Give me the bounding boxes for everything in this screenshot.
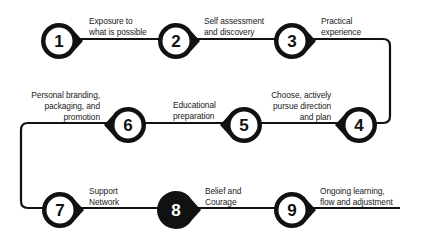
step-4-label: Choose, actively pursue direction and pl… xyxy=(271,89,331,122)
step-3-number: 3 xyxy=(287,32,296,51)
step-8-node-highlighted: 8 xyxy=(157,191,201,229)
step-1-number: 1 xyxy=(54,32,63,51)
step-2-number: 2 xyxy=(171,32,180,51)
step-2-label: Self assessment and discovery xyxy=(204,15,264,37)
step-3-label: Practical experience xyxy=(321,15,361,37)
step-5-number: 5 xyxy=(239,116,248,135)
step-9-label: Ongoing learning, flow and adjustment xyxy=(320,185,393,207)
step-2-node: 2 xyxy=(158,23,200,59)
step-5-label: Educational preparation xyxy=(173,99,216,121)
step-6-label: Personal branding, packaging, and promot… xyxy=(31,89,100,122)
step-7-node: 7 xyxy=(42,192,84,228)
step-1-label: Exposure to what is possible xyxy=(89,15,147,37)
step-7-number: 7 xyxy=(55,201,64,220)
step-6-number: 6 xyxy=(123,116,132,135)
step-1-node: 1 xyxy=(41,23,83,59)
step-3-node: 3 xyxy=(274,23,316,59)
step-4-number: 4 xyxy=(354,116,364,135)
step-9-node: 9 xyxy=(274,192,316,228)
step-8-label: Belief and Courage xyxy=(205,185,241,207)
step-8-number: 8 xyxy=(171,201,180,220)
step-9-number: 9 xyxy=(287,201,296,220)
step-7-label: Support Network xyxy=(89,185,119,207)
